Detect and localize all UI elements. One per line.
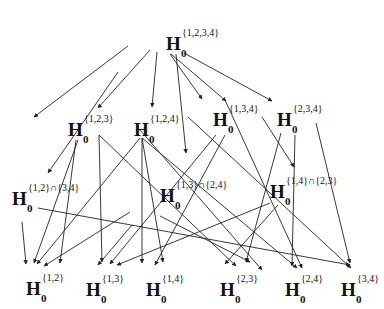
node-subscript: 0 [41,293,47,304]
node-subscript: 0 [83,134,89,145]
node-symbol: H [285,280,300,299]
node-symbol: H [12,189,27,208]
node-subscript: 0 [149,134,155,145]
node-superscript: {1,2,3,4} [182,28,219,38]
node-symbol: H [68,120,83,139]
edge-arrow [184,53,272,101]
edge-arrow [160,216,250,262]
node-symbol: H [160,186,175,205]
edge-arrow [22,222,26,264]
edge-arrow [140,130,262,270]
edge-arrow [152,52,157,107]
edge-arrow [316,123,350,263]
node-symbol: H [86,280,101,299]
node-symbol: H [213,110,228,129]
node-symbol: H [26,279,41,298]
node-superscript: {1,3}∩{2,4} [176,180,227,190]
node-symbol: H [166,34,181,53]
node-superscript: {2,4} [301,274,323,284]
node-subscript: 0 [101,294,107,305]
edge-layer [0,0,384,309]
node-superscript: {1,2,3} [84,114,114,124]
node-superscript: {1,2}∩{3,4} [28,183,79,193]
node-subscript: 0 [27,203,33,214]
node-symbol: H [134,120,149,139]
edge-arrow [98,50,150,108]
node-superscript: {1,4} [162,274,184,284]
edge-arrow [37,138,140,264]
edge-arrow [98,225,132,265]
edge-arrow [34,140,78,263]
node-subscript: 0 [356,294,362,305]
edge-arrow [117,203,270,265]
node-superscript: {3,4} [357,274,379,284]
node-symbol: H [277,110,292,129]
edge-arrow [60,140,76,263]
node-superscript: {1,4}∩{2,3} [286,176,337,186]
node-subscript: 0 [161,294,167,305]
node-superscript: {2,3,4} [293,104,323,114]
arrow-edges [22,46,351,270]
node-superscript: {2,3} [236,274,258,284]
node-superscript: {1,3} [102,274,124,284]
node-subscript: 0 [285,196,291,207]
node-subscript: 0 [300,294,306,305]
node-superscript: {1,2,4} [150,114,180,124]
node-subscript: 0 [235,294,241,305]
node-symbol: H [270,182,285,201]
node-superscript: {1,3,4} [229,104,259,114]
node-symbol: H [220,280,235,299]
node-subscript: 0 [292,124,298,135]
node-subscript: 0 [181,48,187,59]
edge-arrow [34,46,128,117]
node-symbol: H [341,280,356,299]
edge-arrow [99,135,102,262]
node-subscript: 0 [228,124,234,135]
edge-arrow [38,208,350,265]
node-subscript: 0 [175,200,181,211]
node-superscript: {1,2} [42,273,64,283]
node-symbol: H [146,280,161,299]
